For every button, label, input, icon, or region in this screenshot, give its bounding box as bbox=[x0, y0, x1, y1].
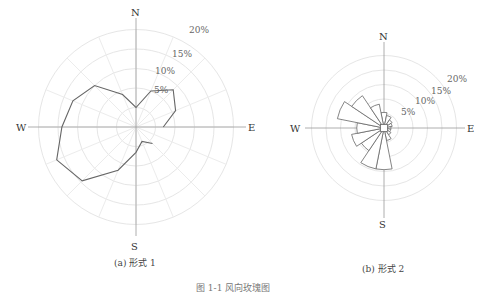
ring-label-15: 15% bbox=[431, 86, 451, 96]
wind-frequency-line bbox=[57, 86, 176, 181]
ring-label-5: 5% bbox=[401, 107, 416, 117]
figure-caption: 图 1-1 风向玫瑰图 bbox=[196, 281, 270, 294]
caption-a: (a) 形式 1 bbox=[114, 256, 156, 269]
wind-rose-bar-chart: N E S W 5% 10% 15% 20% bbox=[290, 31, 474, 230]
ring-label-20: 20% bbox=[447, 74, 467, 84]
label-north: N bbox=[131, 7, 140, 18]
calm-box bbox=[381, 125, 388, 132]
caption-b: (b) 形式 2 bbox=[362, 262, 404, 275]
label-north: N bbox=[379, 31, 388, 42]
label-east: E bbox=[248, 122, 255, 133]
ring-label-10: 10% bbox=[155, 66, 175, 76]
label-east: E bbox=[467, 123, 474, 134]
label-south: S bbox=[379, 219, 386, 230]
ring-label-20: 20% bbox=[189, 25, 209, 35]
label-west: W bbox=[290, 123, 301, 134]
wind-rose-line-chart: N E S W 5% 10% 15% 20% bbox=[16, 7, 255, 252]
ring-label-5: 5% bbox=[154, 85, 169, 95]
label-south: S bbox=[131, 241, 138, 252]
ring-label-10: 10% bbox=[415, 96, 435, 106]
label-west: W bbox=[16, 122, 27, 133]
ring-label-15: 15% bbox=[172, 49, 192, 59]
